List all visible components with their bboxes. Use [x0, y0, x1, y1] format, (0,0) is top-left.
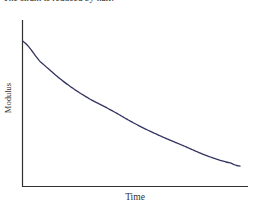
modulus-decay-curve — [23, 41, 241, 166]
modulus-vs-time-chart: Modulus Time — [0, 0, 255, 210]
axes — [22, 20, 248, 187]
y-axis-label: Modulus — [3, 70, 13, 126]
data-series-group — [23, 41, 241, 166]
x-axis-label: Time — [105, 192, 165, 202]
plot-canvas — [0, 0, 255, 210]
figure-screenshot: The strain is reduced by half. Modulus T… — [0, 0, 255, 210]
